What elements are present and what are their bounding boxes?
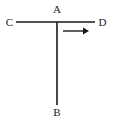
motion-arrow-right-icon xyxy=(63,28,89,35)
vertex-label-d: D xyxy=(96,17,109,28)
vertex-label-b: B xyxy=(50,107,64,118)
vertex-label-a: A xyxy=(50,4,64,15)
diagram-canvas: C A D B xyxy=(0,0,113,126)
arrow-head xyxy=(83,28,89,35)
vertex-label-c: C xyxy=(3,17,16,28)
